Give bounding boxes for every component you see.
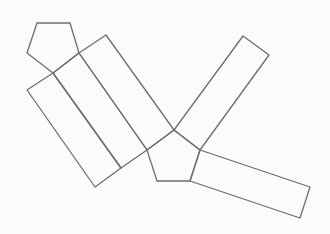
rect-upper-right bbox=[174, 36, 269, 150]
rect-lower-right bbox=[190, 150, 310, 218]
rect-band-1 bbox=[27, 73, 121, 187]
pentagon-top-left bbox=[27, 23, 79, 73]
rect-band-3 bbox=[79, 35, 174, 150]
rect-band-2 bbox=[53, 53, 147, 168]
net-diagram bbox=[0, 0, 330, 234]
